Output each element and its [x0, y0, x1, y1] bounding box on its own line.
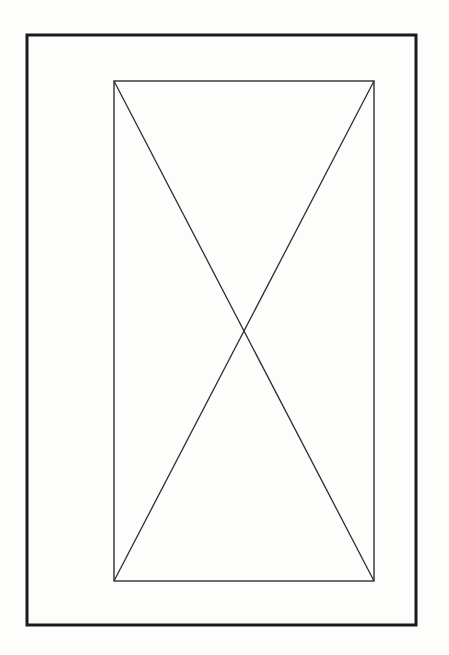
- figure-svg: [0, 0, 449, 655]
- crossed-box-placeholder-figure: [0, 0, 449, 655]
- page-background: [0, 0, 449, 655]
